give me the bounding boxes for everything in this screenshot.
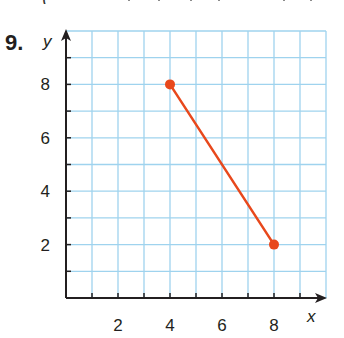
axis-ticks [66,58,300,298]
x-tick-label: 4 [165,316,174,335]
x-axis-label: x [306,307,316,326]
y-tick-label: 4 [41,182,50,201]
y-tick-label: 2 [41,236,50,255]
y-tick-label: 6 [41,129,50,148]
x-tick-label: 8 [269,316,278,335]
x-tick-label: 6 [217,316,226,335]
y-tick-label: 8 [41,75,50,94]
tick-labels: 24682468 [41,75,279,335]
coordinate-grid-chart: 24682468 x y [0,0,344,338]
grid-lines [66,31,326,298]
endpoint-dot [165,79,175,89]
y-axis-label: y [42,32,53,51]
x-tick-label: 2 [113,316,122,335]
axes [61,29,327,303]
endpoint-dot [269,240,279,250]
